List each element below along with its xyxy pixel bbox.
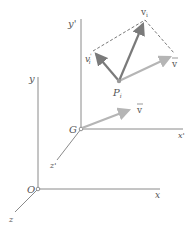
label-v-bar-G: v (136, 105, 143, 115)
label-x-prime: x' (178, 131, 185, 140)
v-i-prime-arrow (96, 54, 119, 81)
particle-velocity: vi v'i Pi v (85, 7, 178, 99)
label-y-prime: y' (67, 18, 76, 29)
label-v-i-prime: v'i (85, 52, 92, 65)
fixed-frame: y x z O (8, 73, 160, 224)
dashed-line-top-right (145, 20, 174, 53)
label-O: O (27, 184, 35, 195)
label-z: z (8, 215, 14, 224)
diagram-canvas: y x z O y' x' z' G v vi v'i Pi v (0, 0, 196, 227)
label-v-i: vi (140, 7, 148, 18)
label-v-bar-P: v (171, 59, 178, 69)
v-bar-at-G-arrow (82, 110, 129, 128)
label-y: y (28, 73, 35, 84)
label-G: G (69, 124, 77, 135)
label-z-prime: z' (49, 161, 56, 170)
origin-O-point (36, 187, 40, 191)
label-P-i: Pi (112, 87, 122, 99)
particle-P-i-point (117, 79, 121, 83)
label-x: x (155, 190, 160, 200)
